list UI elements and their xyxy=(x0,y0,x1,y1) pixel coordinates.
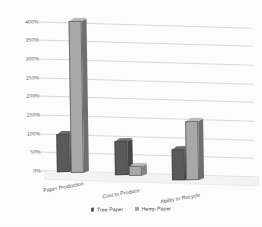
legend-swatch-icon xyxy=(91,208,95,212)
bar-hemp-paper-paper-production[interactable] xyxy=(69,21,84,173)
bar-front-face xyxy=(129,166,142,176)
chart-container: 400% 350% 300% 250% 200% 150% 100% 50% 0… xyxy=(0,0,262,227)
bar-tree-paper-cost-to-produce[interactable] xyxy=(114,141,128,175)
bar-front-face xyxy=(172,149,185,180)
legend-item-hemp-paper[interactable]: Hemp Paper xyxy=(135,205,171,212)
bar-front-face xyxy=(185,121,199,180)
bar-tree-paper-paper-production[interactable] xyxy=(56,134,70,172)
plot-area: 400% 350% 300% 250% 200% 150% 100% 50% 0… xyxy=(0,0,262,227)
bar-front-face xyxy=(69,21,84,173)
legend-item-tree-paper[interactable]: Tree Paper xyxy=(91,206,123,213)
bar-hemp-paper-cost-to-produce[interactable] xyxy=(129,166,142,176)
bar-side-face xyxy=(198,119,204,180)
bar-front-face xyxy=(56,134,70,172)
bar-tree-paper-ability-to-recycle[interactable] xyxy=(172,149,185,180)
bar-hemp-paper-ability-to-recycle[interactable] xyxy=(185,121,199,180)
legend-swatch-icon xyxy=(135,207,139,211)
bar-front-face xyxy=(114,141,128,175)
legend-label: Tree Paper xyxy=(97,206,123,212)
legend-label: Hemp Paper xyxy=(141,205,171,211)
